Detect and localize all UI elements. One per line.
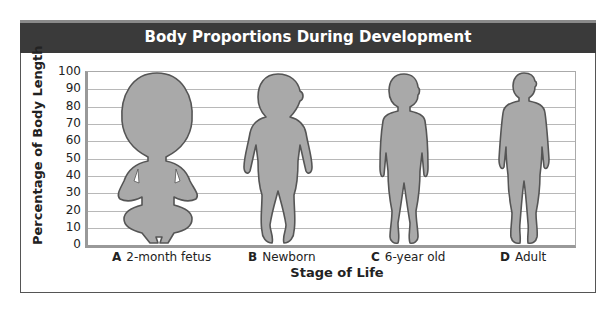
y-axis-label: Percentage of Body Length — [30, 69, 45, 245]
y-tick-90: 90 — [57, 82, 81, 94]
stage-name: 6-year old — [385, 250, 446, 264]
stage-name: Adult — [515, 250, 546, 264]
y-tick-10: 10 — [57, 221, 81, 233]
fetus-figure-icon — [112, 71, 202, 245]
stage-letter: A — [112, 250, 121, 264]
stage-name: Newborn — [262, 250, 315, 264]
stage-label-c: C6-year old — [371, 250, 445, 264]
y-tick-100: 100 — [57, 65, 81, 77]
y-tick-0: 0 — [57, 238, 81, 250]
stage-label-d: DAdult — [500, 250, 546, 264]
stage-label-b: BNewborn — [248, 250, 316, 264]
newborn-figure-icon — [240, 71, 316, 245]
stage-label-a: A2-month fetus — [112, 250, 211, 264]
y-tick-30: 30 — [57, 186, 81, 198]
y-tick-80: 80 — [57, 100, 81, 112]
y-tick-20: 20 — [57, 204, 81, 216]
y-tick-50: 50 — [57, 152, 81, 164]
stage-name: 2-month fetus — [126, 250, 211, 264]
stage-letter: D — [500, 250, 510, 264]
y-tick-70: 70 — [57, 117, 81, 129]
child-figure-icon — [374, 71, 434, 245]
y-tick-40: 40 — [57, 169, 81, 181]
stage-letter: B — [248, 250, 257, 264]
y-tick-60: 60 — [57, 134, 81, 146]
stage-letter: C — [371, 250, 380, 264]
adult-figure-icon — [496, 71, 552, 245]
chart-title: Body Proportions During Development — [20, 20, 596, 53]
x-axis-label: Stage of Life — [0, 265, 614, 280]
